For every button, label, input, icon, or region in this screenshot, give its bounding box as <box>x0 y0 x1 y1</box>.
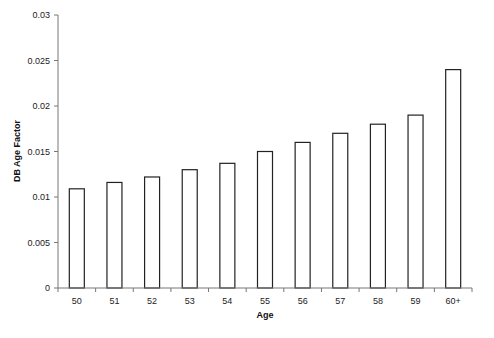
x-tick-label: 54 <box>222 296 232 306</box>
y-tick-label: 0.01 <box>32 192 50 202</box>
x-tick-label: 51 <box>109 296 119 306</box>
bars <box>69 70 460 288</box>
y-tick-label: 0.02 <box>32 101 50 111</box>
y-tick-label: 0 <box>45 283 50 293</box>
bar-56 <box>295 142 310 288</box>
x-tick-label: 55 <box>260 296 270 306</box>
bar-50 <box>69 189 84 288</box>
bar-59 <box>408 115 423 288</box>
x-tick-label: 58 <box>373 296 383 306</box>
bar-57 <box>333 133 348 288</box>
bar-55 <box>258 152 273 289</box>
x-tick-label: 57 <box>335 296 345 306</box>
bar-54 <box>220 163 235 288</box>
x-tick-label: 53 <box>185 296 195 306</box>
x-tick-label: 60+ <box>446 296 461 306</box>
bar-51 <box>107 182 122 288</box>
y-tick-label: 0.03 <box>32 10 50 20</box>
x-tick-label: 59 <box>411 296 421 306</box>
x-tick-label: 52 <box>147 296 157 306</box>
bar-53 <box>182 170 197 288</box>
bar-60+ <box>446 70 461 288</box>
x-tick-label: 50 <box>72 296 82 306</box>
x-axis-title: Age <box>256 310 273 320</box>
bar-58 <box>370 124 385 288</box>
x-axis-ticks: 5051525354555657585960+ <box>58 288 472 306</box>
y-tick-label: 0.005 <box>27 238 50 248</box>
y-tick-label: 0.015 <box>27 147 50 157</box>
x-tick-label: 56 <box>298 296 308 306</box>
y-axis-ticks: 00.0050.010.0150.020.0250.03 <box>27 10 58 293</box>
bar-52 <box>145 177 160 288</box>
y-tick-label: 0.025 <box>27 56 50 66</box>
y-axis-title: DB Age Factor <box>12 119 22 182</box>
bar-chart: 00.0050.010.0150.020.0250.03 50515253545… <box>0 0 494 338</box>
